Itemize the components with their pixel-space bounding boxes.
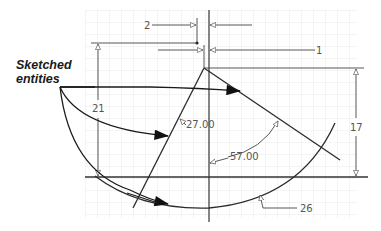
sketch-grid <box>85 10 357 218</box>
dim-2-label[interactable]: 2 <box>144 20 150 31</box>
sketched-entities-callout: Sketched entities <box>16 58 72 86</box>
dim-21-label[interactable]: 21 <box>92 103 105 114</box>
dim-1-label[interactable]: 1 <box>316 45 322 56</box>
callout-line-1: Sketched <box>16 58 72 72</box>
dim-27-label[interactable]: 27.00 <box>186 119 215 130</box>
dim-57-label[interactable]: 57.00 <box>230 151 259 162</box>
sketch-canvas: 2 1 21 17 27.00 57.00 26 <box>0 0 381 231</box>
dim-26-label[interactable]: 26 <box>300 203 313 214</box>
callout-line-2: entities <box>16 72 72 86</box>
dim-17-label[interactable]: 17 <box>350 122 363 133</box>
